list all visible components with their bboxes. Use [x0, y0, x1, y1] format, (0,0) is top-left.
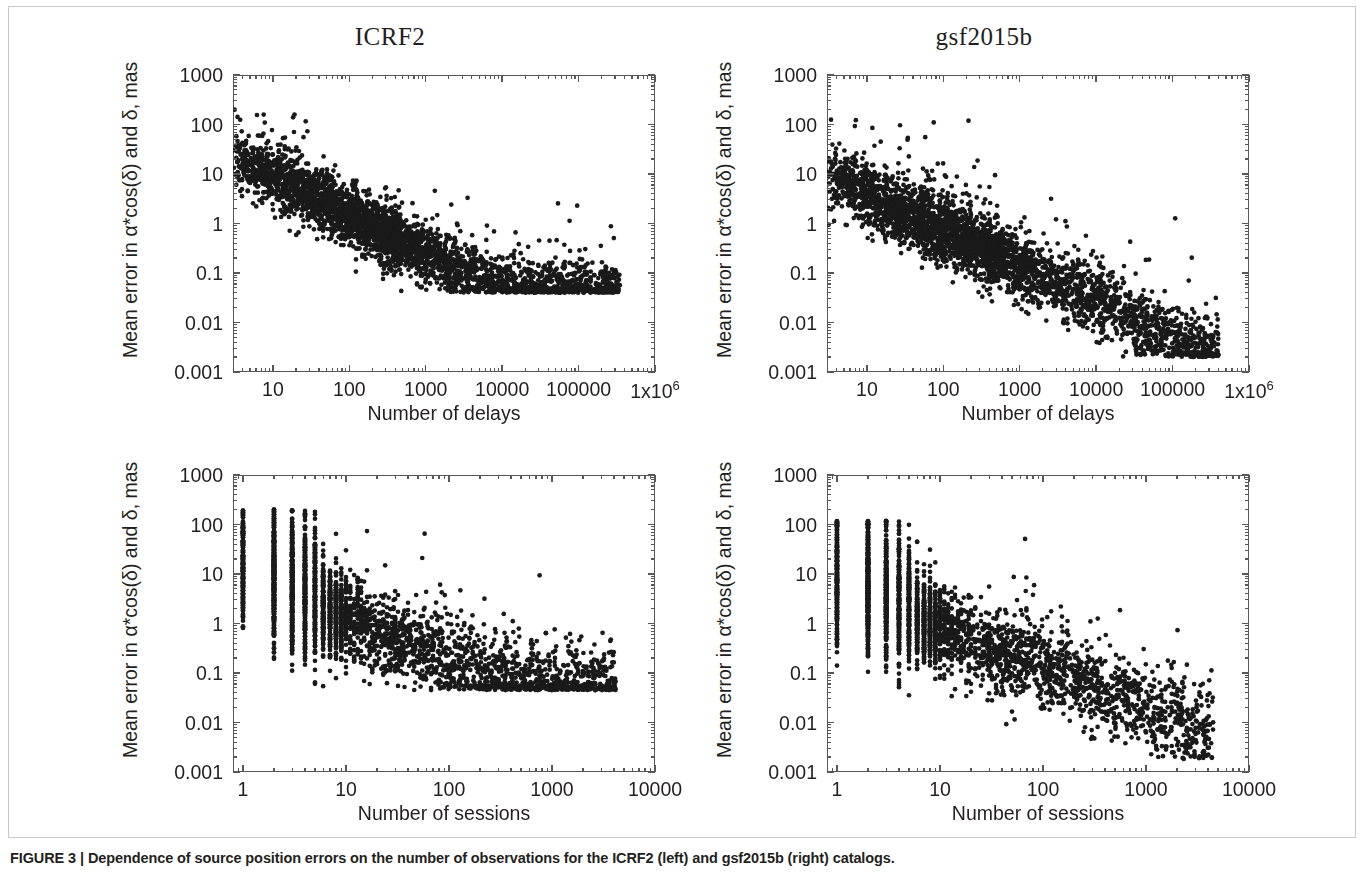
x-axis-label-bottom-left: Number of sessions	[233, 802, 655, 825]
x-axis-tick-major	[578, 75, 579, 82]
x-axis-tick-minor	[1176, 475, 1177, 479]
y-axis-tick-major	[648, 272, 655, 273]
y-axis-tick-minor	[651, 631, 655, 632]
y-axis-tick-minor	[827, 558, 831, 559]
x-axis-tick-minor	[601, 475, 602, 479]
x-axis-tick-minor	[859, 368, 860, 372]
y-axis-tick-minor	[1245, 625, 1249, 626]
x-axis-tick-minor	[295, 368, 296, 372]
y-axis-tick-minor	[1245, 544, 1249, 545]
x-axis-tick-minor	[1208, 368, 1209, 372]
x-axis-tick-minor	[1114, 768, 1115, 772]
x-axis-tick-minor	[448, 75, 449, 79]
y-axis-tick-minor	[233, 94, 237, 95]
x-axis-tick-minor	[309, 75, 310, 79]
y-axis-tick-minor	[233, 176, 237, 177]
x-axis-tick-minor	[547, 475, 548, 479]
y-axis-tick-minor	[827, 707, 831, 708]
x-axis-tick-minor	[1073, 768, 1074, 772]
y-axis-tick-major	[1242, 124, 1249, 125]
x-axis-tick-minor	[494, 75, 495, 79]
y-axis-tick-minor	[1245, 539, 1249, 540]
y-axis-tick-minor	[1245, 94, 1249, 95]
x-axis-tick-minor	[637, 368, 638, 372]
y-axis-tick-major	[1242, 623, 1249, 624]
y-axis-tick-minor	[827, 89, 831, 90]
x-axis-tick-minor	[332, 75, 333, 79]
y-axis-tick-minor	[651, 342, 655, 343]
y-axis-tick-minor	[1245, 532, 1249, 533]
y-axis-tick-minor	[827, 748, 831, 749]
y-axis-tick-minor	[1245, 181, 1249, 182]
x-axis-tick-minor	[912, 75, 913, 79]
x-axis-tick-major	[1042, 765, 1043, 772]
panel-bottom-right: Mean error in α*cos(δ) and δ, mas 100010…	[699, 439, 1269, 839]
y-axis-tick-minor	[233, 109, 237, 110]
y-tick-label: 10	[201, 563, 223, 586]
y-axis-tick-minor	[233, 275, 237, 276]
x-axis-tick-minor	[939, 75, 940, 79]
x-axis-tick-minor	[402, 75, 403, 79]
x-axis-tick-minor	[529, 475, 530, 479]
x-axis-tick-major	[939, 475, 940, 482]
x-axis-tick-minor	[561, 368, 562, 372]
x-axis-tick-minor	[1026, 768, 1027, 772]
y-axis-tick-minor	[651, 544, 655, 545]
y-axis-tick-minor	[233, 126, 237, 127]
y-axis-tick-minor	[651, 139, 655, 140]
y-axis-tick-major	[648, 524, 655, 525]
y-axis-tick-minor	[1245, 188, 1249, 189]
y-axis-tick-minor	[1245, 109, 1249, 110]
y-axis-tick-minor	[827, 576, 831, 577]
x-axis-tick-minor	[249, 368, 250, 372]
x-axis-tick-minor	[323, 768, 324, 772]
y-axis-tick-minor	[827, 733, 831, 734]
y-axis-tick-minor	[827, 100, 831, 101]
x-tick-label: 10000	[1222, 778, 1276, 801]
x-axis-tick-major	[654, 475, 655, 482]
y-axis-tick-minor	[651, 756, 655, 757]
y-axis-tick-minor	[651, 89, 655, 90]
x-axis-tick-minor	[1012, 368, 1013, 372]
x-axis-tick-minor	[332, 368, 333, 372]
y-axis-tick-minor	[1245, 228, 1249, 229]
y-axis-tick-minor	[1245, 485, 1249, 486]
x-axis-tick-minor	[1002, 75, 1003, 79]
y-axis-tick-minor	[1245, 628, 1249, 629]
x-axis-tick-minor	[1217, 768, 1218, 772]
x-axis-tick-minor	[935, 75, 936, 79]
y-axis-tick-minor	[827, 756, 831, 757]
y-axis-tick-minor	[651, 275, 655, 276]
y-axis-tick-minor	[827, 544, 831, 545]
y-axis-tick-minor	[233, 144, 237, 145]
y-axis-tick-minor	[1245, 677, 1249, 678]
y-axis-tick-minor	[1245, 208, 1249, 209]
x-axis-tick-minor	[996, 368, 997, 372]
y-axis-tick-major	[233, 322, 240, 323]
y-axis-tick-minor	[1245, 631, 1249, 632]
y-axis-tick-minor	[233, 181, 237, 182]
x-axis-tick-minor	[269, 75, 270, 79]
panel-title-gsf2015b-delays: gsf2015b	[699, 23, 1269, 51]
y-axis-tick-minor	[651, 500, 655, 501]
x-axis-tick-major	[425, 75, 426, 82]
x-axis-tick-major	[943, 75, 944, 82]
y-axis-tick-minor	[651, 243, 655, 244]
y-axis-tick-minor	[233, 234, 237, 235]
y-tick-label: 1000	[774, 64, 817, 87]
x-axis-tick-major	[1248, 365, 1249, 372]
x-axis-tick-minor	[863, 75, 864, 79]
y-axis-tick-minor	[651, 126, 655, 127]
x-axis-tick-minor	[426, 768, 427, 772]
y-axis-tick-minor	[827, 529, 831, 530]
x-axis-tick-minor	[432, 768, 433, 772]
x-axis-tick-minor	[566, 75, 567, 79]
x-axis-tick-minor	[479, 475, 480, 479]
x-axis-tick-minor	[395, 768, 396, 772]
x-axis-tick-minor	[372, 75, 373, 79]
y-axis-tick-major	[827, 672, 834, 673]
x-axis-tick-minor	[432, 475, 433, 479]
y-axis-tick-minor	[1245, 89, 1249, 90]
y-tick-label: 0.001	[174, 761, 223, 784]
y-axis-tick-minor	[233, 558, 237, 559]
